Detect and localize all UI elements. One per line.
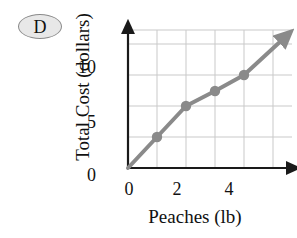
plot-area: [60, 8, 297, 208]
data-point-3: [210, 86, 220, 96]
data-point-1: [152, 132, 162, 142]
line-chart: Total Cost (dollars) Peaches (lb) 10 5 0…: [60, 8, 297, 238]
x-axis-title: Peaches (lb): [100, 206, 290, 228]
data-point-2: [181, 101, 191, 111]
data-point-4: [239, 70, 249, 80]
gridlines-vertical: [157, 30, 273, 168]
series-line: [128, 40, 282, 168]
option-letter: D: [34, 18, 47, 36]
option-letter-bubble[interactable]: D: [18, 14, 62, 39]
question-option-figure: D Total Cost (dollars) Peaches (lb) 10 5…: [0, 0, 297, 238]
gridlines-horizontal: [128, 44, 292, 168]
